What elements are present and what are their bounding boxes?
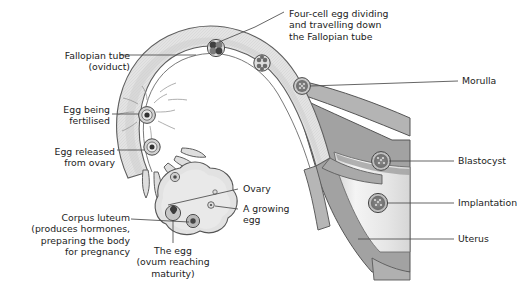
stage-morulla	[294, 78, 311, 95]
stage-blastocyst	[372, 152, 391, 171]
four-cell-a	[210, 42, 217, 49]
label-blastocyst: Blastocyst	[458, 155, 526, 166]
growing-egg-core	[210, 204, 212, 206]
sperm-3	[156, 110, 175, 112]
fimbria-1	[142, 170, 149, 198]
morulla-cell-2	[303, 83, 305, 85]
fimbria-5	[181, 148, 206, 157]
morulla-cell-1	[299, 83, 301, 85]
blastocyst-cell-3	[378, 162, 380, 164]
morulla-cell-3	[299, 87, 301, 89]
follicle-developing-core	[173, 175, 177, 179]
implantation-cell-4	[380, 204, 382, 206]
stage-four-cell-egg	[207, 39, 224, 56]
eight-cell-f	[260, 67, 264, 71]
four-cell-c	[210, 48, 217, 55]
label-the-egg: The egg (ovum reaching maturity)	[103, 245, 243, 279]
stage-egg-released	[144, 139, 160, 155]
eight-cell-e	[260, 55, 264, 59]
four-cell-b	[216, 42, 223, 49]
implantation-cell-2	[379, 199, 381, 201]
label-morulla: Morulla	[462, 75, 526, 86]
stage-egg-being-fertilised	[139, 107, 156, 124]
blastocyst-cell-2	[382, 157, 384, 159]
blastocyst-cell-1	[377, 157, 379, 159]
sperm-9	[160, 83, 176, 92]
implantation-cell-3	[375, 204, 377, 206]
egg-released-nucleus	[150, 145, 155, 150]
label-four-cell-egg: Four-cell egg dividing and travelling do…	[289, 8, 469, 42]
label-egg-released-from-ovary: Egg released from ovary	[0, 146, 115, 169]
blastocyst-cell-4	[383, 162, 385, 164]
stage-eight-cell-egg	[254, 55, 270, 71]
morulla-cell-4	[303, 87, 305, 89]
label-ovary: Ovary	[243, 183, 303, 194]
implantation-cell-5	[377, 201, 379, 203]
stage-implantation	[368, 193, 387, 212]
egg-being-fertilised-nucleus	[144, 112, 149, 117]
sperm-10	[168, 99, 187, 100]
corpus-luteum-core	[190, 218, 195, 223]
label-fallopian-tube: Fallopian tube (oviduct)	[0, 50, 130, 73]
label-uterus: Uterus	[458, 233, 518, 244]
diagram-canvas: Fallopian tube (oviduct) Egg being ferti…	[0, 0, 526, 287]
implantation-cell-1	[374, 199, 376, 201]
sperm-2	[154, 94, 167, 103]
morulla-cell-5	[301, 85, 303, 87]
blastocyst-cell-5	[380, 159, 382, 161]
label-implantation: Implantation	[458, 197, 526, 208]
label-egg-being-fertilised: Egg being fertilised	[0, 104, 110, 127]
leader-morulla	[310, 81, 458, 86]
sperm-7	[158, 121, 175, 129]
four-cell-zona	[207, 39, 224, 56]
four-cell-d	[216, 48, 223, 55]
label-growing-egg: A growing egg	[243, 203, 313, 226]
